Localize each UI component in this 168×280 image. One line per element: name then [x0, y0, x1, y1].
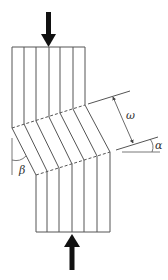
bottom-load-arrow-icon — [64, 234, 80, 270]
lower-fiber-block — [36, 152, 110, 232]
beta-label: β — [18, 164, 25, 177]
omega-dimension: ω — [113, 97, 135, 143]
kink-band-diagram: ω α β — [0, 0, 168, 280]
upper-kink-boundary — [12, 91, 130, 128]
kinked-fiber-band — [12, 105, 110, 175]
omega-label: ω — [126, 109, 135, 122]
upper-fiber-block — [12, 47, 85, 128]
alpha-label: α — [155, 139, 163, 152]
top-load-arrow-icon — [41, 12, 56, 47]
